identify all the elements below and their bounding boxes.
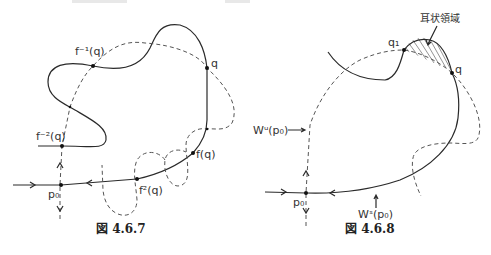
figure-caption: 図 4.6.8 [345,222,395,236]
label-f-inv2-q: f⁻²(q) [36,130,66,143]
label-f-inv1-q: f⁻¹(q) [75,45,105,58]
point-fq [191,151,195,155]
figure-4-6-8: 耳状領域 q₁ q Wᵘ(p₀) Wˢ(p₀) p₀ 図 4.6.8 [253,12,480,236]
label-p0: p₀ [48,188,60,201]
figure-4-6-7: f⁻¹(q) q f⁻²(q) f(q) f²(q) p₀ 図 4.6.7 [13,25,234,236]
point-q1 [402,48,406,52]
stable-manifold-right [265,39,459,193]
point-q [450,71,454,75]
label-ws-p0: Wˢ(p₀) [358,208,393,221]
label-f2q: f²(q) [139,184,163,197]
label-p0: p₀ [293,196,305,209]
point-intersection [206,128,209,131]
label-fq: f(q) [196,148,215,161]
point-p0 [59,183,63,187]
arrow-up-icon [303,171,309,176]
arrow-up-icon [57,163,63,168]
figure-caption: 図 4.6.7 [96,222,146,236]
label-q: q [455,63,462,76]
pointer-wu [288,128,305,132]
pointer-ws [374,195,378,208]
point-q [205,66,209,70]
label-ear-region: 耳状領域 [420,12,460,24]
diagram-canvas: f⁻¹(q) q f⁻²(q) f(q) f²(q) p₀ 図 4.6.7 [0,0,491,255]
label-q: q [211,57,218,70]
point-p0 [304,191,308,195]
point-f-inv2-q [60,144,64,148]
point-f2q [135,177,139,181]
point-f-inv1-q [91,64,95,68]
point-intersection [69,106,72,109]
label-q1: q₁ [388,36,399,49]
label-wu-p0: Wᵘ(p₀) [253,124,288,137]
